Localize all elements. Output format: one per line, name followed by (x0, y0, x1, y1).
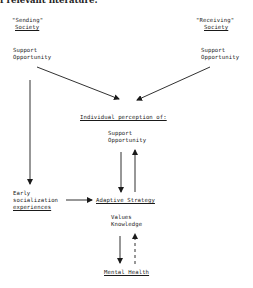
arrow-receiving-to-perception (137, 67, 210, 100)
arrow-sending-to-perception (37, 67, 119, 99)
diagram-arrows (0, 0, 253, 288)
